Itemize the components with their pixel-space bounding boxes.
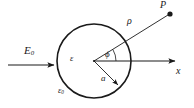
radius-line bbox=[94, 61, 118, 85]
field-point-dot bbox=[167, 11, 172, 16]
outer-permittivity-label: ε0 bbox=[58, 86, 64, 95]
rho-label: ρ bbox=[127, 16, 132, 26]
phi-angle-arc bbox=[113, 50, 116, 61]
x-axis-label: x bbox=[176, 66, 180, 76]
figure-canvas: E0 ε ε0 ϕ a ρ P x bbox=[0, 0, 194, 108]
angle-phi-label: ϕ bbox=[105, 50, 110, 59]
applied-field-label: E0 bbox=[24, 45, 34, 57]
center-point bbox=[93, 60, 95, 62]
field-point-label: P bbox=[160, 0, 166, 10]
radius-label: a bbox=[101, 74, 106, 83]
inner-permittivity-label: ε bbox=[70, 54, 73, 63]
